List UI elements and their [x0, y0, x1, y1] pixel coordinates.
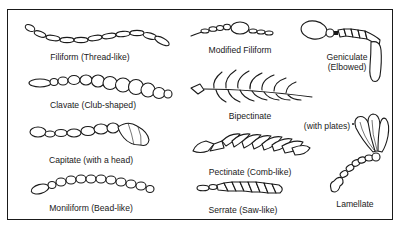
moniliform-antenna-drawing [30, 175, 154, 196]
label-geniculate: Geniculate [326, 52, 367, 62]
label-geniculate-elbowed: (Elbowed) [328, 62, 367, 72]
label-clavate: Clavate (Club-shaped) [50, 100, 136, 110]
label-filiform: Filiform (Thread-like) [50, 52, 129, 62]
pectinate-antenna-drawing [193, 134, 310, 155]
label-capitate: Capitate (with a head) [49, 155, 133, 165]
filiform-antenna-drawing [24, 23, 170, 47]
label-bipectinate: Bipectinate [229, 111, 272, 121]
label-modified-filiform: Modified Filiform [208, 45, 271, 55]
antenna-illustrations [0, 0, 400, 227]
label-lamellate: Lamellate [336, 199, 373, 209]
label-with-plates: (with plates) [304, 121, 350, 131]
clavate-antenna-drawing [29, 75, 172, 99]
capitate-antenna-drawing [30, 123, 149, 145]
label-moniliform: Moniliform (Bead-like) [49, 203, 133, 213]
serrate-antenna-drawing [197, 182, 282, 193]
label-serrate: Serrate (Saw-like) [209, 205, 278, 215]
bipectinate-antenna-drawing [191, 70, 312, 102]
modified-filiform-antenna-drawing [191, 22, 273, 36]
geniculate-antenna-drawing [300, 19, 382, 82]
label-pectinate: Pectinate (Comb-like) [209, 167, 292, 177]
